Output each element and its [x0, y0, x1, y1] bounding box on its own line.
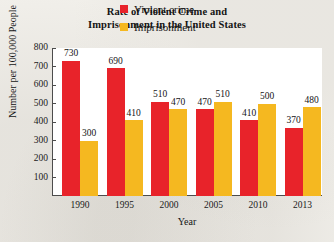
bar-violent-crime [196, 109, 214, 196]
bar-value-label: 370 [284, 116, 304, 126]
x-tick-label: 1990 [55, 201, 105, 211]
bar-value-label: 730 [61, 49, 81, 59]
chart-page: Rate of Violent Crime and Imprisonment i… [0, 0, 334, 242]
bar-value-label: 510 [213, 90, 233, 100]
x-tick-label: 2005 [189, 201, 239, 211]
bar-group: 690410 [107, 48, 143, 196]
bar-value-label: 690 [106, 57, 126, 67]
bar-group: 510470 [151, 48, 187, 196]
y-tick-mark [52, 103, 56, 104]
bar-imprisonment [169, 109, 187, 196]
x-axis-label: Year [52, 216, 322, 227]
x-tick-label: 2010 [233, 201, 283, 211]
bar-value-label: 510 [150, 90, 170, 100]
bar-group: 470510 [196, 48, 232, 196]
bar-violent-crime [240, 120, 258, 196]
y-tick-mark [52, 140, 56, 141]
x-tick-label: 1995 [100, 201, 150, 211]
bar-imprisonment [258, 104, 276, 197]
bar-value-label: 500 [257, 92, 277, 102]
y-tick-label: 600 [22, 80, 48, 90]
legend-swatch-violent-crime [120, 5, 128, 13]
bar-value-label: 300 [79, 129, 99, 139]
y-tick-mark [52, 48, 56, 49]
y-axis-label: Number per 100,000 People [7, 0, 18, 132]
legend-label-imprisonment: Imprisonment [134, 20, 196, 35]
bar-imprisonment [214, 102, 232, 196]
bar-value-label: 470 [168, 98, 188, 108]
x-tick-label: 2000 [144, 201, 194, 211]
y-tick-label: 200 [22, 154, 48, 164]
bar-group: 410500 [240, 48, 276, 196]
legend-label-violent-crime: Violent crime [134, 2, 194, 17]
bar-imprisonment [80, 141, 98, 197]
y-tick-label: 300 [22, 136, 48, 146]
y-tick-label: 800 [22, 43, 48, 53]
bar-group: 730300 [62, 48, 98, 196]
y-tick-label: 700 [22, 62, 48, 72]
bar-value-label: 410 [124, 109, 144, 119]
y-tick-mark [52, 66, 56, 67]
y-tick-mark [52, 122, 56, 123]
y-tick-mark [52, 85, 56, 86]
bar-value-label: 410 [239, 109, 259, 119]
y-tick-mark [52, 159, 56, 160]
bar-group: 370480 [285, 48, 321, 196]
y-tick-label: 400 [22, 117, 48, 127]
bar-violent-crime [285, 128, 303, 196]
y-tick-mark [52, 177, 56, 178]
y-tick-label: 500 [22, 99, 48, 109]
bar-value-label: 480 [302, 96, 322, 106]
bar-violent-crime [151, 102, 169, 196]
legend-swatch-imprisonment [120, 23, 128, 31]
x-tick-label: 2013 [278, 201, 328, 211]
bar-value-label: 470 [195, 98, 215, 108]
bar-violent-crime [62, 61, 80, 196]
bar-imprisonment [303, 107, 321, 196]
y-tick-label: 100 [22, 173, 48, 183]
bar-imprisonment [125, 120, 143, 196]
bar-violent-crime [107, 68, 125, 196]
